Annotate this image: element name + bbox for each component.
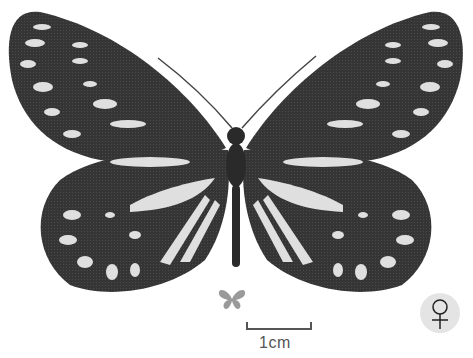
scale-bar-label: 1cm bbox=[259, 334, 291, 352]
female-symbol-icon bbox=[420, 293, 460, 333]
butterfly-specimen-image bbox=[0, 0, 473, 300]
butterfly-body bbox=[226, 127, 246, 267]
sex-symbol-badge bbox=[420, 293, 460, 333]
life-size-butterfly-icon bbox=[218, 288, 246, 310]
scale-bar bbox=[246, 322, 312, 330]
